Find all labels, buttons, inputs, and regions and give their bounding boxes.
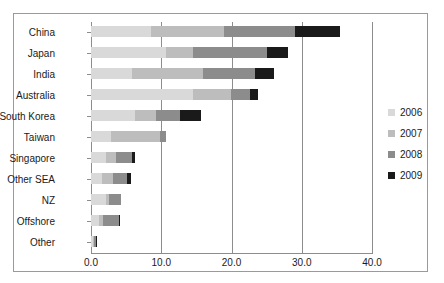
bar-segment-2006 (91, 68, 132, 79)
bar-segment-2006 (91, 194, 106, 205)
bar-row (14, 85, 427, 106)
bar-row (14, 169, 427, 190)
bar-row (14, 43, 427, 64)
bar-segment-2006 (91, 173, 102, 184)
bar-segment-2009 (295, 26, 341, 37)
bar-segment-2007 (102, 173, 113, 184)
bar-row (14, 64, 427, 85)
bar-segment-2008 (113, 173, 126, 184)
bar-segment-2009 (267, 47, 288, 58)
bar-segment-2009 (255, 68, 274, 79)
bar-segment-2009 (119, 215, 120, 226)
bar-segment-2008 (160, 131, 166, 142)
stacked-bar (91, 194, 121, 205)
bar-segment-2007 (135, 110, 155, 121)
legend-item-2006: 2006 (388, 102, 440, 123)
bar-row (14, 148, 427, 169)
bar-segment-2009 (132, 152, 136, 163)
bar-segment-2007 (106, 152, 117, 163)
legend-label: 2008 (400, 149, 422, 160)
bar-segment-2008 (203, 68, 254, 79)
x-axis-label: 20.0 (222, 257, 241, 268)
x-axis-tick (91, 249, 92, 254)
bar-segment-2006 (91, 131, 111, 142)
bar-row (14, 22, 427, 43)
x-axis-tick (372, 249, 373, 254)
x-axis-label: 10.0 (152, 257, 171, 268)
bar-segment-2008 (193, 47, 267, 58)
x-axis-tick (161, 249, 162, 254)
bar-segment-2008 (224, 26, 294, 37)
bar-segment-2006 (91, 152, 106, 163)
x-axis-tick (302, 249, 303, 254)
legend-item-2007: 2007 (388, 123, 440, 144)
stacked-bar (91, 26, 340, 37)
stacked-bar (91, 110, 201, 121)
bar-segment-2007 (193, 89, 232, 100)
bar-segment-2008 (103, 215, 119, 226)
legend-swatch-2009 (388, 172, 395, 179)
stacked-bar (91, 173, 131, 184)
bar-row (14, 190, 427, 211)
x-axis-label: 40.0 (362, 257, 381, 268)
stacked-bar (91, 68, 274, 79)
bar-segment-2008 (156, 110, 181, 121)
bar-segment-2008 (116, 152, 131, 163)
bar-segment-2006 (91, 215, 99, 226)
legend-label: 2006 (400, 107, 422, 118)
bar-segment-2009 (250, 89, 258, 100)
legend-swatch-2006 (388, 109, 395, 116)
bar-row (14, 211, 427, 232)
legend-swatch-2008 (388, 151, 395, 158)
stacked-bar (91, 215, 120, 226)
stacked-bar (91, 236, 97, 247)
stacked-bar (91, 89, 258, 100)
legend-swatch-2007 (388, 130, 395, 137)
bar-segment-2009 (96, 236, 97, 247)
bar-segment-2009 (180, 110, 200, 121)
chart-frame: ChinaJapanIndiaAustraliaSouth KoreaTaiwa… (13, 13, 428, 272)
bar-segment-2008 (109, 194, 121, 205)
x-axis-tick (232, 249, 233, 254)
bar-segment-2006 (91, 26, 151, 37)
bar-segment-2008 (231, 89, 250, 100)
chart-legend: 2006200720082009 (388, 102, 440, 186)
bar-segment-2007 (111, 131, 159, 142)
legend-item-2009: 2009 (388, 165, 440, 186)
bar-segment-2006 (91, 110, 135, 121)
stacked-bar (91, 152, 135, 163)
bar-row (14, 127, 427, 148)
bar-row (14, 106, 427, 127)
legend-label: 2009 (400, 170, 422, 181)
bar-segment-2006 (91, 89, 193, 100)
x-axis-label: 0.0 (84, 257, 98, 268)
legend-item-2008: 2008 (388, 144, 440, 165)
bar-segment-2007 (132, 68, 204, 79)
legend-label: 2007 (400, 128, 422, 139)
bar-row (14, 232, 427, 253)
x-axis-label: 30.0 (292, 257, 311, 268)
bar-segment-2006 (91, 47, 166, 58)
bar-segment-2007 (151, 26, 225, 37)
bar-segment-2009 (127, 173, 131, 184)
stacked-bar (91, 131, 166, 142)
stacked-bar (91, 47, 288, 58)
bar-segment-2007 (166, 47, 193, 58)
